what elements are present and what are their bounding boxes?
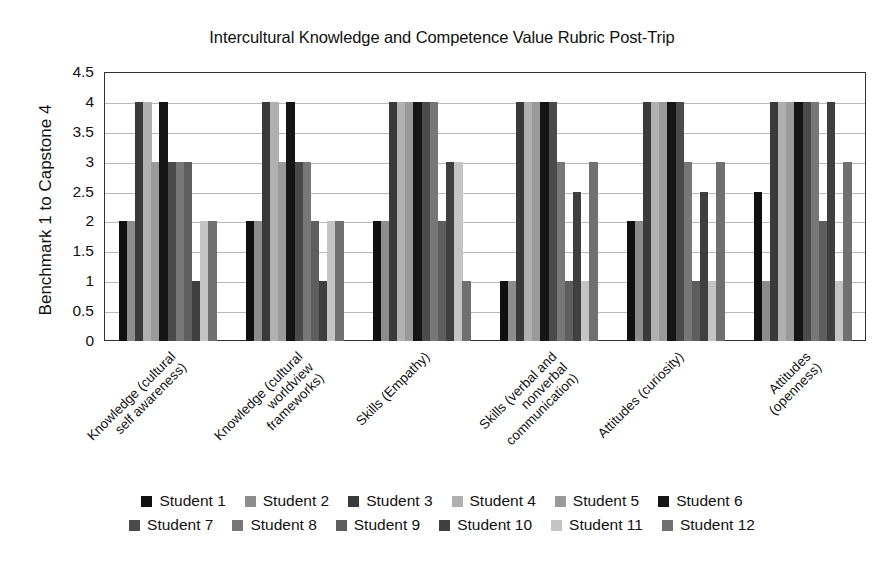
legend-item[interactable]: Student 7 — [129, 516, 213, 534]
legend-swatch-icon — [232, 520, 243, 531]
legend-swatch-icon — [348, 496, 359, 507]
legend-swatch-icon — [141, 496, 152, 507]
legend-swatch-icon — [555, 496, 566, 507]
legend-row: Student 7Student 8Student 9Student 10Stu… — [129, 516, 755, 534]
bar-group — [358, 72, 485, 341]
legend-swatch-icon — [551, 520, 562, 531]
bar[interactable] — [462, 281, 471, 341]
x-axis-category-label: Skills (Empathy) — [301, 349, 432, 480]
y-axis-tick-label: 0.5 — [46, 303, 94, 319]
legend-swatch-icon — [452, 496, 463, 507]
bar-group — [739, 72, 866, 341]
bars-layer — [104, 72, 866, 341]
legend-swatch-icon — [245, 496, 256, 507]
legend-label: Student 11 — [569, 516, 643, 534]
bar[interactable] — [843, 162, 852, 341]
y-axis-tick-label: 1 — [46, 273, 94, 289]
chart-legend: Student 1Student 2Student 3Student 4Stud… — [0, 492, 884, 534]
y-axis-tick-label: 4.5 — [46, 64, 94, 80]
chart-title: Intercultural Knowledge and Competence V… — [0, 28, 884, 47]
legend-item[interactable]: Student 11 — [551, 516, 643, 534]
bar-group — [612, 72, 739, 341]
x-axis-category-labels: Knowledge (cultural self awareness)Knowl… — [0, 341, 884, 491]
bar[interactable] — [589, 162, 598, 341]
legend-item[interactable]: Student 6 — [658, 492, 742, 510]
legend-item[interactable]: Student 12 — [662, 516, 755, 534]
bar[interactable] — [208, 221, 217, 341]
legend-label: Student 4 — [470, 492, 536, 510]
legend-item[interactable]: Student 1 — [141, 492, 225, 510]
legend-label: Student 5 — [573, 492, 639, 510]
legend-row: Student 1Student 2Student 3Student 4Stud… — [141, 492, 742, 510]
legend-item[interactable]: Student 9 — [336, 516, 420, 534]
bar-group — [485, 72, 612, 341]
bar[interactable] — [716, 162, 725, 341]
y-axis-tick-label: 1.5 — [46, 243, 94, 259]
legend-swatch-icon — [439, 520, 450, 531]
bar-group — [231, 72, 358, 341]
legend-label: Student 6 — [676, 492, 742, 510]
legend-label: Student 8 — [250, 516, 316, 534]
legend-swatch-icon — [658, 496, 669, 507]
legend-label: Student 7 — [147, 516, 213, 534]
legend-item[interactable]: Student 2 — [245, 492, 329, 510]
y-axis-tick-label: 2 — [46, 213, 94, 229]
legend-label: Student 12 — [680, 516, 755, 534]
legend-item[interactable]: Student 5 — [555, 492, 639, 510]
legend-swatch-icon — [129, 520, 140, 531]
x-axis-category-label: Attitudes (curiosity) — [555, 349, 686, 480]
legend-item[interactable]: Student 4 — [452, 492, 536, 510]
y-axis-tick-label: 4 — [46, 94, 94, 110]
legend-label: Student 10 — [457, 516, 532, 534]
legend-item[interactable]: Student 10 — [439, 516, 532, 534]
legend-label: Student 3 — [366, 492, 432, 510]
x-axis-category-label: Skills (verbal and nonverbal communicati… — [428, 349, 580, 501]
legend-item[interactable]: Student 3 — [348, 492, 432, 510]
x-axis-category-label: Knowledge (cultural worldview frameworks… — [174, 349, 326, 501]
bar[interactable] — [335, 221, 344, 341]
x-axis-category-label: Attitudes (openness) — [682, 349, 823, 490]
y-axis-tick-label: 2.5 — [46, 184, 94, 200]
legend-label: Student 9 — [354, 516, 420, 534]
bar-group — [104, 72, 231, 341]
y-axis-tick-label: 3.5 — [46, 124, 94, 140]
chart-root: Intercultural Knowledge and Competence V… — [0, 0, 884, 569]
legend-label: Student 1 — [159, 492, 225, 510]
legend-swatch-icon — [662, 520, 673, 531]
legend-label: Student 2 — [263, 492, 329, 510]
y-axis-tick-label: 3 — [46, 154, 94, 170]
x-axis-category-label: Knowledge (cultural self awareness) — [47, 349, 188, 490]
legend-item[interactable]: Student 8 — [232, 516, 316, 534]
legend-swatch-icon — [336, 520, 347, 531]
